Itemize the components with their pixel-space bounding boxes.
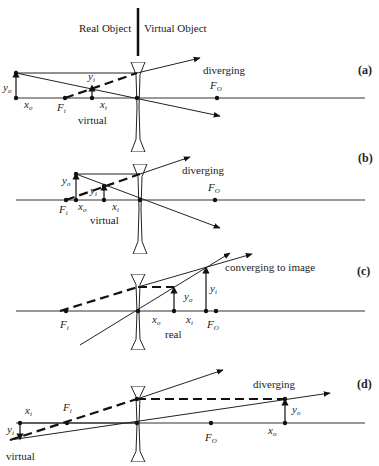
label-yi: yi bbox=[87, 70, 95, 84]
label-xi: xi bbox=[99, 98, 107, 112]
label-fo: FO bbox=[207, 181, 220, 195]
panel-c: yo yi xo xi Fi FO real converging to ima… bbox=[16, 253, 370, 350]
panel-tag: (b) bbox=[358, 151, 373, 165]
panel-b: yo yi xo xi Fi FO virtual diverging (b) bbox=[16, 151, 373, 254]
image-type-label: real bbox=[165, 328, 181, 340]
focal-point-fi bbox=[64, 309, 68, 313]
label-yo: yo bbox=[291, 403, 301, 417]
label-xo: xo bbox=[77, 200, 87, 214]
lens-center bbox=[138, 198, 142, 202]
refracted-ray bbox=[137, 58, 200, 73]
beam-label: converging to image bbox=[225, 261, 315, 273]
label-yi: yi bbox=[6, 423, 14, 437]
label-fi: Fi bbox=[62, 401, 72, 415]
label-xi: xi bbox=[111, 200, 119, 214]
image-point bbox=[204, 309, 208, 313]
panel-a: yo yi xo xi Fi FO virtual diverging (a) bbox=[2, 58, 372, 152]
label-fo: FO bbox=[209, 79, 222, 93]
diverging-lens bbox=[133, 164, 147, 254]
focal-point-fo bbox=[215, 96, 219, 100]
image-point bbox=[102, 198, 106, 202]
focal-point-fi bbox=[63, 96, 67, 100]
label-yi: yi bbox=[209, 282, 217, 296]
image-point bbox=[18, 421, 22, 425]
label-fo: FO bbox=[204, 431, 217, 445]
image-point bbox=[90, 96, 94, 100]
focal-point-fo bbox=[213, 198, 217, 202]
panel-tag: (c) bbox=[357, 264, 370, 278]
header: Real Object Virtual Object bbox=[79, 8, 207, 56]
focal-point-fi bbox=[65, 421, 69, 425]
label-fo: FO bbox=[206, 318, 219, 332]
focal-point-fo bbox=[209, 421, 213, 425]
label-yo: yo bbox=[61, 174, 71, 188]
panel-tag: (a) bbox=[358, 63, 372, 77]
label-xo: xo bbox=[151, 313, 161, 327]
panel-tag: (d) bbox=[357, 377, 372, 391]
incoming-virtual-ray bbox=[60, 287, 138, 311]
label-fi: Fi bbox=[56, 101, 66, 115]
image-type-label: virtual bbox=[90, 214, 119, 226]
object-point bbox=[14, 96, 18, 100]
label-xi: xi bbox=[185, 313, 193, 327]
object-point bbox=[283, 421, 287, 425]
lens-top-point bbox=[135, 397, 139, 401]
diverging-lens-ray-diagram: Real Object Virtual Object yo yi xo xi F… bbox=[0, 0, 379, 466]
object-tip bbox=[283, 397, 287, 401]
label-yi: yi bbox=[89, 184, 97, 198]
beam-label: diverging bbox=[203, 64, 245, 76]
panel-d: xi yi Fi FO xo yo virtual diverging (d) bbox=[6, 370, 372, 462]
image-type-label: virtual bbox=[6, 450, 35, 462]
label-fi: Fi bbox=[58, 203, 68, 217]
label-xo: xo bbox=[267, 424, 277, 438]
object-tip bbox=[14, 71, 18, 75]
label-yo: yo bbox=[183, 290, 193, 304]
beam-label: diverging bbox=[253, 378, 295, 390]
lens-center bbox=[135, 421, 139, 425]
virtual-object-label: Virtual Object bbox=[144, 22, 207, 34]
label-fi: Fi bbox=[59, 318, 69, 332]
lens-center bbox=[136, 309, 140, 313]
label-xi: xi bbox=[24, 404, 32, 418]
image-tip bbox=[102, 184, 106, 188]
focal-point-fo bbox=[214, 309, 218, 313]
focal-point-fi bbox=[64, 198, 68, 202]
lens-center bbox=[135, 96, 139, 100]
refracted-ray-upper bbox=[137, 370, 223, 399]
image-type-label: virtual bbox=[78, 114, 107, 126]
label-xo: xo bbox=[23, 98, 33, 112]
label-yo: yo bbox=[2, 81, 12, 95]
object-point bbox=[172, 309, 176, 313]
beam-label: diverging bbox=[182, 164, 224, 176]
real-object-label: Real Object bbox=[79, 22, 131, 34]
object-tip bbox=[74, 172, 78, 176]
